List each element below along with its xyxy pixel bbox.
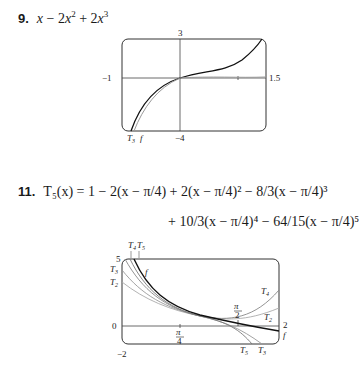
y-min-label: −4 — [175, 133, 185, 143]
y-max-label-2: 5 — [116, 254, 121, 264]
label-t3-left: T3 — [110, 264, 118, 275]
label-t3-bottom: T3 — [258, 345, 266, 356]
x-max-label-2: 2 — [283, 320, 288, 330]
curve-f — [131, 39, 262, 131]
problem-number-11: 11. — [18, 184, 35, 199]
x-min-label: −1 — [102, 73, 112, 83]
legend-f: f — [140, 133, 144, 143]
legend-t3: T3 — [127, 133, 135, 144]
plot-frame — [122, 39, 266, 131]
label-t5-bottom: T5 — [240, 345, 248, 356]
label-t4-right: T4 — [261, 286, 269, 297]
label-t2-right: T2 — [264, 312, 272, 323]
x-tick-label-4: 4 — [177, 336, 182, 346]
problem-11-heading: 11. T₅(x) = 1 − 2(x − π/4) + 2(x − π/4)²… — [18, 182, 328, 200]
y-zero-label: 0 — [112, 321, 117, 331]
x-max-label: 1.5 — [269, 73, 281, 83]
label-t5-top: T5 — [137, 240, 145, 251]
problem-11-line-2: + 10/3(x − π/4)⁴ − 64/15(x − π/4)⁵ — [168, 214, 359, 230]
label-t2-left: T2 — [110, 277, 118, 288]
label-t4-top: T4 — [128, 240, 136, 251]
label-f-left: f — [145, 267, 149, 277]
curve-t4 — [125, 259, 279, 318]
x-tick-label-2: 2 — [235, 310, 240, 320]
problem-11-line-1: T₅(x) = 1 − 2(x − π/4) + 2(x − π/4)² − 8… — [43, 184, 327, 199]
curve-f-2 — [134, 259, 279, 331]
y-max-label: 3 — [178, 28, 183, 38]
label-f-right: f — [283, 330, 287, 340]
y-min-label-2: −2 — [117, 349, 127, 359]
curve-t3 — [134, 77, 266, 131]
